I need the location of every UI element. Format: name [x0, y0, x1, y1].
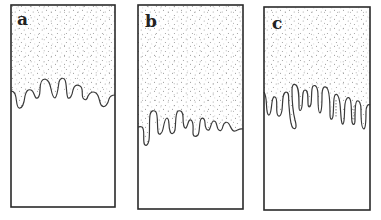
panel-label-b: b [145, 11, 157, 31]
panel-label-a: a [17, 9, 28, 29]
panel-label-c: c [272, 13, 282, 33]
panel-b: b [138, 5, 243, 209]
fingering-figure: a b c [0, 0, 381, 220]
panel-a: a [11, 5, 115, 207]
panel-c: c [264, 7, 370, 210]
